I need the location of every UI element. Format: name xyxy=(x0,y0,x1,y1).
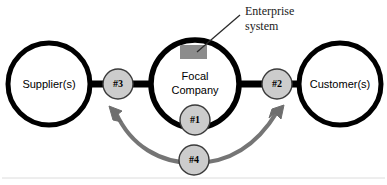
focal-company-label-line2: Company xyxy=(171,84,219,96)
marker-1-label: #1 xyxy=(190,114,200,125)
marker-4[interactable]: #4 xyxy=(179,145,209,175)
marker-3-label: #3 xyxy=(113,78,123,89)
supply-chain-diagram: Supplier(s) Customer(s) Focal Company #3… xyxy=(0,0,387,185)
marker-2[interactable]: #2 xyxy=(262,69,292,99)
supplier-label: Supplier(s) xyxy=(22,78,75,90)
marker-3[interactable]: #3 xyxy=(103,69,133,99)
focal-company-label-line1: Focal xyxy=(182,70,209,82)
marker-1[interactable]: #1 xyxy=(180,105,210,135)
customer-label: Customer(s) xyxy=(310,78,371,90)
enterprise-system-label-line2: system xyxy=(245,19,279,33)
node-customer[interactable]: Customer(s) xyxy=(299,43,381,125)
node-supplier[interactable]: Supplier(s) xyxy=(8,43,90,125)
diagram-canvas: Supplier(s) Customer(s) Focal Company #3… xyxy=(0,0,387,185)
marker-4-label: #4 xyxy=(189,154,199,165)
enterprise-system-label-line1: Enterprise xyxy=(245,4,294,18)
marker-2-label: #2 xyxy=(272,78,282,89)
